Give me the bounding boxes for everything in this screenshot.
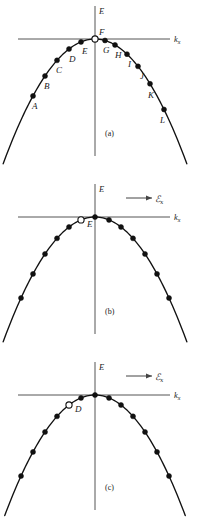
state-label-H: H (114, 50, 122, 60)
electric-field-label: ℰx (155, 194, 164, 205)
state-label-C: C (56, 65, 63, 75)
k-axis-label: kx (174, 212, 181, 223)
electron-state-dot (55, 236, 60, 241)
electron-state-dot (119, 225, 124, 230)
hole-state-circle (78, 217, 84, 223)
electron-state-dot (119, 403, 124, 408)
electron-state-dot (67, 225, 72, 230)
panel-caption: (a) (105, 129, 114, 138)
electron-state-dot (136, 64, 141, 69)
hole-label-D: D (74, 404, 82, 414)
electron-state-dot (67, 47, 72, 52)
electron-state-dot (167, 296, 172, 301)
energy-axis-label: E (98, 362, 105, 372)
electron-state-dot (131, 236, 136, 241)
electron-state-dot (79, 395, 84, 400)
electron-state-dot (107, 395, 112, 400)
panel-a: EkxABCDEGHIJKLF(a) (0, 0, 198, 178)
state-label-E: E (81, 46, 88, 56)
electron-state-dot (79, 39, 84, 44)
electron-state-dot (43, 252, 48, 257)
electron-state-dot (19, 296, 24, 301)
energy-axis-label: E (98, 184, 105, 194)
electron-state-dot (125, 52, 130, 57)
energy-axis-label: E (98, 6, 105, 16)
electron-state-dot (31, 449, 36, 454)
electric-field-label: ℰx (155, 372, 164, 383)
right-arrow-icon (126, 195, 152, 200)
hole-label-E: E (86, 219, 93, 229)
k-axis-label: kx (174, 34, 181, 45)
state-label-I: I (127, 59, 132, 69)
electron-state-dot (143, 430, 148, 435)
electron-state-dot (167, 474, 172, 479)
panel-c: EkxℰxD(c) (0, 356, 198, 532)
figure-root: EkxABCDEGHIJKLF(a) EkxℰxE(b) EkxℰxD(c) (0, 0, 198, 532)
electron-state-dot (107, 217, 112, 222)
hole-state-circle (92, 36, 98, 42)
electron-state-dot (43, 430, 48, 435)
electron-state-dot (31, 93, 36, 98)
electron-state-dot (31, 271, 36, 276)
state-label-G: G (103, 45, 110, 55)
electron-state-dot (103, 38, 108, 43)
electron-state-dot (155, 271, 160, 276)
electron-state-dot (148, 81, 153, 86)
hole-state-circle (66, 402, 72, 408)
electron-state-dot (93, 393, 98, 398)
electron-state-dot (155, 449, 160, 454)
right-arrow-icon (126, 373, 152, 378)
panel-caption: (c) (105, 483, 114, 492)
electron-state-dot (55, 414, 60, 419)
electron-state-dot (93, 215, 98, 220)
panel-caption: (b) (105, 307, 115, 316)
electron-state-dot (43, 74, 48, 79)
electron-state-dot (113, 42, 118, 47)
electron-state-dot (162, 107, 167, 112)
hole-label-F: F (98, 27, 105, 37)
state-label-J: J (140, 71, 145, 81)
electron-state-dot (143, 252, 148, 257)
state-label-K: K (147, 90, 155, 100)
panel-b: EkxℰxE(b) (0, 178, 198, 356)
electron-state-dot (55, 58, 60, 63)
state-label-A: A (31, 101, 38, 111)
state-label-B: B (44, 81, 50, 91)
state-label-L: L (159, 115, 165, 125)
electron-state-dot (131, 414, 136, 419)
electron-state-dot (19, 474, 24, 479)
k-axis-label: kx (174, 390, 181, 401)
state-label-D: D (68, 54, 76, 64)
